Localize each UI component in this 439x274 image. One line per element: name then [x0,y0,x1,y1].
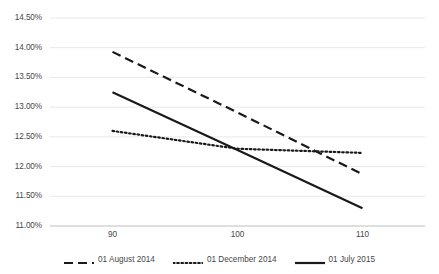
legend-item[interactable]: 01 July 2015 [295,254,375,264]
y-tick-label: 12.50% [15,133,42,141]
y-tick-label: 13.00% [15,103,42,111]
y-tick-label: 14.50% [15,14,42,22]
series-line [113,52,363,174]
legend-item[interactable]: 01 August 2014 [64,254,155,264]
y-tick-label: 11.00% [15,222,42,230]
plot-area [50,18,425,226]
data-series-group [113,52,363,208]
gridlines [50,18,425,226]
legend-label: 01 July 2015 [329,255,375,264]
legend-swatch-dashed-icon [64,254,94,264]
x-tick-label: 110 [356,230,369,239]
plot-canvas [50,18,425,226]
x-axis: 90100110 [50,230,425,244]
y-tick-label: 13.50% [15,73,42,81]
legend-swatch-dotted-icon [173,254,203,264]
legend-label: 01 December 2014 [207,255,277,264]
legend-item[interactable]: 01 December 2014 [173,254,277,264]
line-chart: 11.00%11.50%12.00%12.50%13.00%13.50%14.0… [0,0,439,274]
legend-swatch-solid-icon [295,254,325,264]
x-tick-label: 90 [108,230,117,239]
legend-label: 01 August 2014 [98,255,155,264]
y-tick-label: 11.50% [15,192,42,200]
y-axis: 11.00%11.50%12.00%12.50%13.00%13.50%14.0… [0,18,46,226]
series-line [113,92,363,208]
y-tick-label: 12.00% [15,162,42,170]
chart-legend: 01 August 201401 December 201401 July 20… [0,250,439,268]
y-tick-label: 14.00% [15,44,42,52]
x-tick-label: 100 [231,230,245,239]
